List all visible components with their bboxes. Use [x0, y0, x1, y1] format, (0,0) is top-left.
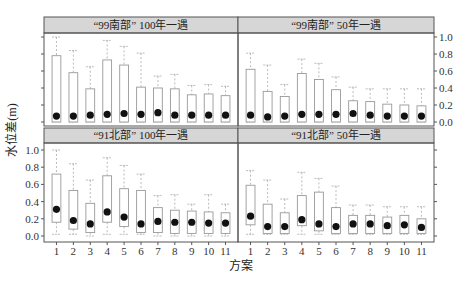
box-11	[417, 89, 426, 122]
box-1	[246, 53, 255, 122]
x-tick-label: 5	[121, 245, 127, 257]
mean-marker	[70, 217, 77, 224]
y-tick-label: 1.0	[25, 144, 39, 156]
mean-marker	[222, 220, 229, 227]
box-1	[246, 171, 255, 235]
panels: “99南部” 100年一遇“99南部” 50年一遇“91北部” 100年一遇“9…	[44, 17, 434, 242]
y-tick-label: 0.4	[439, 82, 453, 94]
box-11	[221, 204, 230, 236]
y-tick-label: 0.2	[25, 213, 39, 225]
x-tick-label: 6	[333, 245, 339, 257]
mean-marker	[205, 220, 212, 227]
panel-top-left: “99南部” 100年一遇	[44, 17, 238, 126]
box-4	[297, 59, 306, 122]
x-tick-label: 8	[367, 245, 373, 257]
x-tick-label: 9	[385, 245, 391, 257]
mean-marker	[154, 218, 161, 225]
box-1	[52, 150, 61, 234]
x-tick-label: 4	[104, 245, 110, 257]
x-tick-label: 2	[71, 245, 77, 257]
y-tick-label: 0.4	[25, 196, 39, 208]
mean-marker	[137, 111, 144, 118]
x-tick-label: 2	[265, 245, 271, 257]
panel-top-right: “99南部” 50年一遇	[238, 17, 434, 126]
mean-marker	[247, 112, 254, 119]
mean-marker	[281, 112, 288, 119]
y-tick-label: 0.6	[439, 65, 453, 77]
mean-marker	[247, 213, 254, 220]
panel-bottom-right: “91北部” 50年一遇	[238, 128, 434, 242]
x-tick-label: 10	[399, 245, 411, 257]
mean-marker	[137, 220, 144, 227]
box-3	[280, 85, 289, 122]
y-tick-label: 0.8	[25, 161, 39, 173]
mean-marker	[281, 223, 288, 230]
mean-marker	[70, 112, 77, 119]
box-7	[349, 87, 358, 122]
mean-marker	[384, 222, 391, 229]
mean-marker	[315, 111, 322, 118]
box-3	[86, 180, 95, 236]
box-6	[332, 186, 341, 234]
mean-marker	[349, 110, 356, 117]
mean-marker	[104, 111, 111, 118]
x-tick-label: 1	[54, 245, 60, 257]
x-axis-title: 方案	[229, 258, 253, 273]
mean-marker	[205, 112, 212, 119]
mean-marker	[120, 110, 127, 117]
box-10	[204, 195, 213, 236]
x-tick-label: 6	[138, 245, 144, 257]
mean-marker	[222, 112, 229, 119]
mean-marker	[367, 112, 374, 119]
mean-marker	[332, 223, 339, 230]
x-tick-label: 5	[316, 245, 322, 257]
mean-marker	[188, 219, 195, 226]
mean-marker	[384, 112, 391, 119]
x-tick-label: 8	[172, 245, 178, 257]
box-6	[137, 53, 146, 122]
mean-marker	[53, 206, 60, 213]
box-6	[137, 174, 146, 234]
mean-marker	[87, 220, 94, 227]
mean-marker	[332, 111, 339, 118]
box-3	[86, 67, 95, 122]
box-5	[120, 165, 129, 234]
x-tick-label: 11	[220, 245, 231, 257]
mean-marker	[87, 112, 94, 119]
mean-marker	[401, 112, 408, 119]
box-9	[383, 89, 392, 122]
box-11	[221, 86, 230, 122]
y-tick-label: 0.0	[25, 230, 39, 242]
x-tick-label: 3	[282, 245, 288, 257]
box-2	[263, 65, 272, 122]
x-tick-label: 10	[203, 245, 215, 257]
box-4	[297, 172, 306, 234]
x-tick-label: 9	[189, 245, 195, 257]
mean-marker	[298, 111, 305, 118]
x-tick-label: 3	[88, 245, 94, 257]
box-2	[69, 164, 78, 235]
box-10	[400, 207, 409, 235]
mean-marker	[171, 219, 178, 226]
x-tick-label: 7	[155, 245, 161, 257]
box-7	[349, 205, 358, 234]
box-5	[314, 178, 323, 234]
panel-title: “99南部” 100年一遇	[93, 18, 188, 31]
box-5	[314, 63, 323, 122]
box-8	[170, 74, 179, 122]
box-9	[383, 207, 392, 235]
mean-marker	[298, 216, 305, 223]
box-8	[366, 205, 375, 234]
panel-title: “91北部” 50年一遇	[291, 128, 381, 141]
mean-marker	[418, 224, 425, 231]
box-4	[103, 40, 112, 122]
x-tick-label: 11	[416, 245, 427, 257]
x-tick-label: 4	[299, 245, 305, 257]
box-8	[366, 89, 375, 122]
y-tick-label: 0.6	[25, 178, 39, 190]
panel-bottom-left: “91北部” 100年一遇	[44, 128, 238, 242]
y-axis-title: 水位差(m)	[4, 103, 19, 156]
mean-marker	[264, 223, 271, 230]
panel-title: “91北部” 100年一遇	[93, 128, 188, 141]
box-6	[332, 77, 341, 122]
